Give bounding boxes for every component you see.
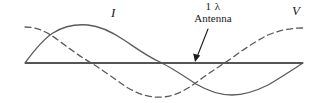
antenna-callout-arrow [193, 29, 208, 62]
antenna-callout-label: 1 λ Antenna [180, 1, 246, 24]
current-label: I [111, 6, 115, 20]
voltage-label: V [292, 4, 300, 18]
antenna-standing-wave-figure: I V 1 λ Antenna [0, 0, 316, 103]
antenna-word-text: Antenna [180, 13, 246, 25]
antenna-wavelength-text: 1 λ [180, 1, 246, 13]
current-standing-wave-curve [25, 25, 303, 95]
figure-canvas [0, 0, 316, 103]
